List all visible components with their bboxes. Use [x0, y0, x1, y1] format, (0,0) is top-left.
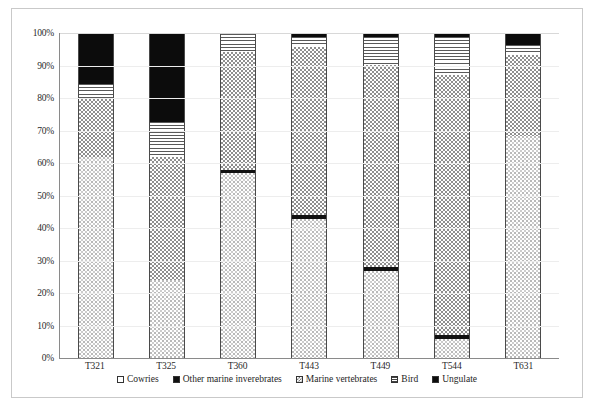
- bar-segment-cowries[interactable]: [79, 157, 113, 358]
- y-axis-tick-label: 40%: [37, 223, 60, 233]
- bar-segment-cowries[interactable]: [364, 271, 398, 358]
- bar-segment-bird[interactable]: [435, 37, 469, 74]
- y-axis-tick-label: 100%: [33, 28, 60, 38]
- ungulate-swatch-icon: [432, 376, 439, 383]
- plot-inner: 100%90%80%70%60%50%40%30%20%10%0%: [59, 33, 559, 359]
- legend-item-label: Cowries: [127, 374, 159, 384]
- gridline: [60, 326, 559, 327]
- plot-area: 100%90%80%70%60%50%40%30%20%10%0%: [59, 33, 559, 359]
- bar-segment-bird[interactable]: [364, 37, 398, 65]
- legend-item-marine-vertebrates[interactable]: Marine vertebrates: [296, 374, 377, 384]
- gridline: [60, 293, 559, 294]
- y-axis-tick-label: 20%: [37, 288, 60, 298]
- bar-segment-marine-vertebrates[interactable]: [435, 75, 469, 336]
- legend-item-cowries[interactable]: Cowries: [117, 374, 159, 384]
- bar-segment-marine-vertebrates[interactable]: [221, 52, 255, 170]
- bar-segment-ungulate[interactable]: [506, 34, 540, 45]
- bar-segment-cowries[interactable]: [221, 173, 255, 358]
- gridline: [60, 196, 559, 197]
- y-axis-tick-label: 90%: [37, 61, 60, 71]
- gridline: [60, 261, 559, 262]
- bar-segment-bird[interactable]: [150, 122, 184, 158]
- legend-item-bird[interactable]: Bird: [391, 374, 418, 384]
- bar-segment-cowries[interactable]: [150, 280, 184, 358]
- other-marine-inverebrates-swatch-icon: [173, 376, 180, 383]
- y-axis-tick-label: 50%: [37, 191, 60, 201]
- gridline: [60, 131, 559, 132]
- legend-item-ungulate[interactable]: Ungulate: [432, 374, 477, 384]
- bird-swatch-icon: [391, 376, 398, 383]
- gridline: [60, 98, 559, 99]
- marine-vertebrates-swatch-icon: [296, 376, 303, 383]
- y-axis-tick-label: 60%: [37, 158, 60, 168]
- bar-segment-bird[interactable]: [292, 37, 326, 47]
- bar-segment-marine-vertebrates[interactable]: [364, 65, 398, 268]
- gridline: [60, 163, 559, 164]
- y-axis-tick-label: 70%: [37, 126, 60, 136]
- bar-segment-ungulate[interactable]: [150, 34, 184, 121]
- bar-segment-marine-vertebrates[interactable]: [79, 99, 113, 157]
- bar-segment-bird[interactable]: [79, 84, 113, 99]
- gridline: [60, 33, 559, 34]
- bar-segment-marine-vertebrates[interactable]: [150, 157, 184, 280]
- bar-segment-cowries[interactable]: [292, 219, 326, 358]
- y-axis-tick-label: 30%: [37, 256, 60, 266]
- gridline: [60, 66, 559, 67]
- y-axis-tick-label: 0%: [42, 353, 60, 363]
- y-axis-tick-label: 80%: [37, 93, 60, 103]
- bar-segment-ungulate[interactable]: [79, 34, 113, 84]
- chart-legend: CowriesOther marine inverebratesMarine v…: [11, 374, 583, 384]
- bar-segment-marine-vertebrates[interactable]: [506, 55, 540, 136]
- figure-frame: 100%90%80%70%60%50%40%30%20%10%0% T321T3…: [11, 8, 583, 398]
- gridline: [60, 228, 559, 229]
- bar-segment-bird[interactable]: [506, 45, 540, 55]
- legend-item-other-marine-inverebrates[interactable]: Other marine inverebrates: [173, 374, 282, 384]
- legend-item-label: Bird: [401, 374, 418, 384]
- legend-item-label: Ungulate: [442, 374, 477, 384]
- bar-segment-cowries[interactable]: [435, 339, 469, 358]
- legend-item-label: Other marine inverebrates: [183, 374, 282, 384]
- y-axis-tick-label: 10%: [37, 321, 60, 331]
- cowries-swatch-icon: [117, 376, 124, 383]
- bar-segment-bird[interactable]: [221, 34, 255, 52]
- legend-item-label: Marine vertebrates: [306, 374, 377, 384]
- stacked-bar-chart: 100%90%80%70%60%50%40%30%20%10%0% T321T3…: [0, 0, 594, 407]
